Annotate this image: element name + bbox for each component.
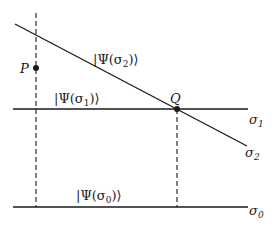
point-p-label: P [19, 61, 29, 76]
point-p-dot [33, 65, 39, 71]
state-label-sigma2: |Ψ(σ2)⟩ [93, 52, 139, 69]
line-sigma2 [15, 24, 247, 146]
line-label-sigma0: σ0 [249, 203, 264, 220]
diagram-canvas: P Q |Ψ(σ2)⟩ |Ψ(σ1)⟩ |Ψ(σ0)⟩ σ1 σ2 σ0 [0, 0, 276, 227]
state-label-sigma1: |Ψ(σ1)⟩ [54, 91, 100, 108]
line-label-sigma1: σ1 [249, 112, 264, 129]
state-label-sigma0: |Ψ(σ0)⟩ [76, 188, 122, 205]
point-q-label: Q [170, 91, 181, 106]
diagram-svg: P Q |Ψ(σ2)⟩ |Ψ(σ1)⟩ |Ψ(σ0)⟩ σ1 σ2 σ0 [0, 0, 276, 227]
line-label-sigma2: σ2 [245, 145, 260, 162]
point-q-dot [174, 106, 180, 112]
